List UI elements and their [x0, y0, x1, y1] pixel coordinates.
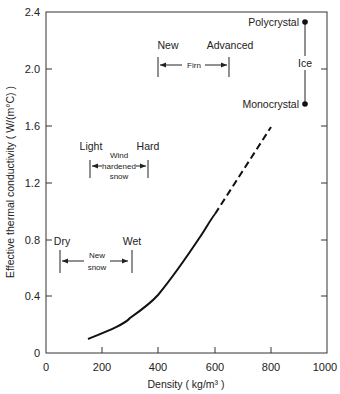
polycrystal-point — [302, 19, 308, 25]
y-tick-1.2: 1.2 — [25, 177, 40, 189]
svg-text:snow: snow — [110, 172, 129, 181]
svg-text:Wet: Wet — [123, 235, 142, 247]
x-tick-200: 200 — [93, 361, 111, 373]
firn-annotation: New Advanced Firn — [157, 39, 253, 77]
svg-text:Advanced: Advanced — [207, 39, 254, 51]
x-tick-0: 0 — [43, 361, 49, 373]
y-axis-label: Effective thermal conductivity ( W/(m°C)… — [4, 86, 16, 278]
wind-hardened-snow-annotation: Light Hard Wind hardened snow — [80, 140, 160, 181]
x-tick-400: 400 — [149, 361, 167, 373]
y-tick-2.4: 2.4 — [25, 6, 40, 18]
svg-text:New: New — [157, 39, 178, 51]
series-measured-line — [88, 214, 215, 339]
svg-text:Light: Light — [80, 140, 103, 152]
new-snow-annotation: Dry Wet New snow — [54, 235, 141, 273]
x-tick-800: 800 — [262, 361, 280, 373]
svg-text:Wind: Wind — [110, 151, 128, 160]
x-axis-label: Density ( kg/m³ ) — [147, 378, 224, 390]
x-tick-1000: 1000 — [313, 361, 337, 373]
ice-label: Ice — [298, 57, 312, 69]
monocrystal-label: Monocrystal — [242, 98, 299, 110]
svg-text:Hard: Hard — [137, 140, 160, 152]
svg-text:New: New — [89, 251, 105, 260]
chart: 0 200 400 600 800 1000 Density ( kg/m³ )… — [0, 0, 340, 394]
series-extrapolated-line — [215, 127, 271, 214]
y-tick-1.6: 1.6 — [25, 120, 40, 132]
x-tick-600: 600 — [206, 361, 224, 373]
x-axis — [102, 347, 271, 353]
polycrystal-label: Polycrystal — [248, 16, 299, 28]
y-tick-0.8: 0.8 — [25, 234, 40, 246]
y-tick-0: 0 — [34, 347, 40, 359]
monocrystal-point — [302, 101, 308, 107]
svg-text:Firn: Firn — [187, 61, 201, 70]
svg-text:hardened: hardened — [102, 162, 136, 171]
y-tick-0.4: 0.4 — [25, 290, 40, 302]
y-tick-2.0: 2.0 — [25, 63, 40, 75]
svg-text:snow: snow — [88, 263, 107, 272]
svg-text:Dry: Dry — [54, 235, 71, 247]
